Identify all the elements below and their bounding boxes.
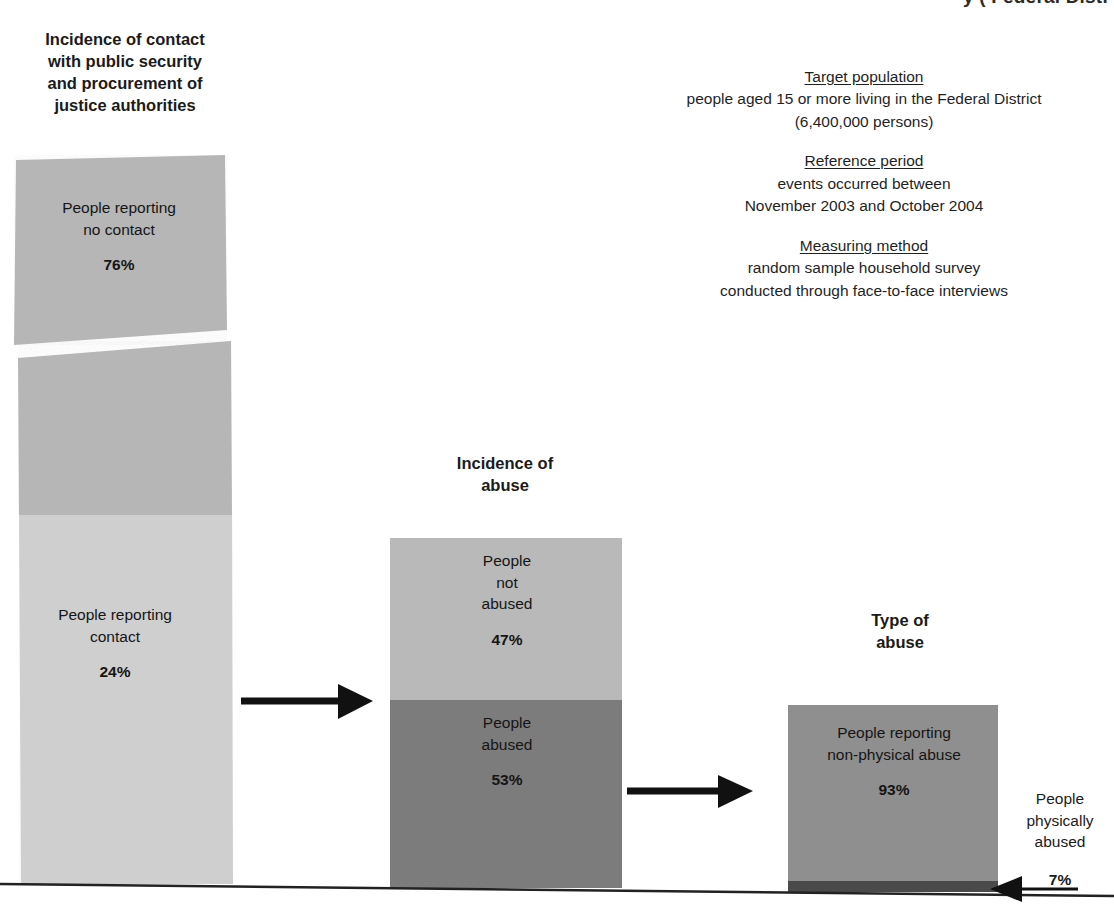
bar-contact-lower <box>19 515 233 884</box>
bar-label-line: contact <box>12 626 218 648</box>
bar-label-line: no contact <box>16 219 222 241</box>
bar-value-abused: 53% <box>392 769 622 791</box>
bar-label-line: abused <box>1012 831 1108 853</box>
heading-line: Incidence of contact <box>10 29 240 51</box>
heading-line: Incidence of <box>400 453 610 475</box>
heading-line: abuse <box>400 475 610 497</box>
info-line: (6,400,000 persons) <box>614 111 1114 133</box>
heading-incidence-of-contact: Incidence of contact with public securit… <box>10 29 240 117</box>
bar-label-abused: People abused 53% <box>392 712 622 791</box>
info-line: November 2003 and October 2004 <box>614 195 1114 217</box>
info-block-reference-period: Reference period events occurred between… <box>614 150 1114 217</box>
bar-label-not-abused: People not abused 47% <box>392 550 622 651</box>
bar-label-line: non-physical abuse <box>790 744 998 766</box>
heading-line: and procurement of <box>10 73 240 95</box>
heading-type-of-abuse: Type of abuse <box>800 610 1000 654</box>
info-title: Target population <box>614 66 1114 88</box>
heading-line: with public security <box>10 51 240 73</box>
bar-label-line: People <box>392 550 622 572</box>
bar-label-line: abused <box>392 734 622 756</box>
arrow-contact-to-abuse <box>241 684 373 719</box>
heading-incidence-of-abuse: Incidence of abuse <box>400 453 610 497</box>
bar-label-line: physically <box>1012 810 1108 832</box>
bar-value-no-contact: 76% <box>16 254 222 276</box>
bar-physically-abused <box>788 881 998 892</box>
bar-contact-upper <box>18 341 232 515</box>
bar-label-physically-abused: People physically abused 7% <box>1012 788 1108 891</box>
info-line: conducted through face-to-face interview… <box>614 280 1114 302</box>
info-title: Measuring method <box>614 235 1114 257</box>
bar-label-non-physical-abuse: People reporting non-physical abuse 93% <box>790 722 998 801</box>
arrow-abuse-to-type <box>627 775 753 808</box>
bar-label-line: abused <box>392 593 622 615</box>
bar-value-non-physical-abuse: 93% <box>790 779 998 801</box>
bar-label-contact: People reporting contact 24% <box>12 604 218 683</box>
bar-value-not-abused: 47% <box>392 629 622 651</box>
info-line: people aged 15 or more living in the Fed… <box>614 88 1114 110</box>
bar-label-line: People <box>1012 788 1108 810</box>
heading-line: Type of <box>800 610 1000 632</box>
bar-label-line: not <box>392 572 622 594</box>
diagram-canvas: y ( Federal Distr <box>0 0 1114 910</box>
heading-line: abuse <box>800 632 1000 654</box>
survey-info-panel: Target population people aged 15 or more… <box>614 66 1114 302</box>
info-block-measuring-method: Measuring method random sample household… <box>614 235 1114 302</box>
bar-label-no-contact: People reporting no contact 76% <box>16 197 222 276</box>
bar-label-line: People reporting <box>790 722 998 744</box>
info-line: random sample household survey <box>614 257 1114 279</box>
heading-line: justice authorities <box>10 95 240 117</box>
bar-value-contact: 24% <box>12 661 218 683</box>
info-title: Reference period <box>614 150 1114 172</box>
bar-label-line: People reporting <box>16 197 222 219</box>
info-line: events occurred between <box>614 173 1114 195</box>
bar-label-line: People reporting <box>12 604 218 626</box>
bar-label-line: People <box>392 712 622 734</box>
info-block-target-population: Target population people aged 15 or more… <box>614 66 1114 133</box>
bar-value-physically-abused: 7% <box>1012 869 1108 891</box>
